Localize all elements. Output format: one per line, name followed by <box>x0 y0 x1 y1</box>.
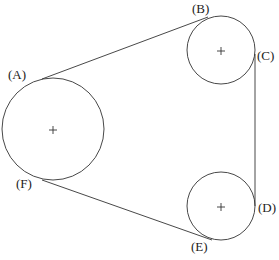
belt-segment-a-b <box>42 17 208 79</box>
diagram-drawing <box>0 0 279 260</box>
label-b: (B) <box>192 2 209 15</box>
lower-pulley-center-mark <box>217 203 225 211</box>
label-f: (F) <box>16 177 32 190</box>
belt-pulley-diagram: (A) (B) (C) (D) (E) (F) <box>0 0 279 260</box>
label-c: (C) <box>257 49 274 62</box>
belt-segment-f-e <box>42 180 212 240</box>
upper-pulley-center-mark <box>217 47 225 55</box>
label-e: (E) <box>191 240 208 253</box>
label-d: (D) <box>258 201 276 214</box>
large-pulley-center-mark <box>49 126 57 134</box>
label-a: (A) <box>8 68 26 81</box>
